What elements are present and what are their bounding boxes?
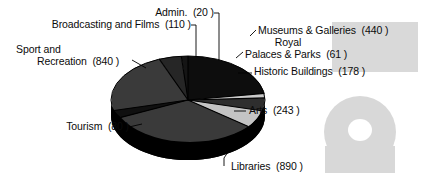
pie-chart-figure: Admin. (20 ) Broadcasting and Films (110… bbox=[0, 0, 440, 186]
leader-broadcasting bbox=[191, 25, 196, 57]
label-libraries: Libraries (890 ) bbox=[231, 161, 303, 173]
leader-admin bbox=[214, 13, 219, 60]
label-sport-recreation-line1: Sport and bbox=[16, 44, 61, 56]
leader-museums bbox=[250, 30, 256, 36]
slice-museums-galleries bbox=[188, 56, 264, 100]
leader-royal bbox=[236, 52, 243, 58]
label-royal-palaces-parks-line1: Royal bbox=[246, 37, 330, 49]
label-royal-palaces-parks-line2: Palaces & Parks (61 ) bbox=[245, 49, 347, 61]
label-broadcasting-films: Broadcasting and Films (110 ) bbox=[20, 19, 191, 31]
label-admin: Admin. (20 ) bbox=[60, 7, 214, 19]
label-historic-buildings: Historic Buildings (178 ) bbox=[254, 66, 365, 78]
label-sport-recreation-line2: Recreation (840 ) bbox=[37, 56, 119, 68]
label-tourism: Tourism (80 ) bbox=[35, 121, 129, 133]
label-museums-galleries: Museums & Galleries (440 ) bbox=[258, 25, 388, 37]
label-arts: Arts (243 ) bbox=[249, 105, 300, 117]
